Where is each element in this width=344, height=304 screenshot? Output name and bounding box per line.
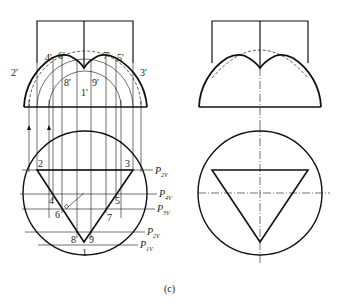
engineering-drawing: 2' 4' 6' 8' 1' 9' 7' 5' 3' 2 3 4 5 6 7 8… <box>0 0 344 304</box>
plane-labels: P2V P4V P3V P2V P1V <box>139 165 173 252</box>
label-9prime: 9' <box>92 77 99 88</box>
right-angle-mark <box>64 204 68 208</box>
label-3prime: 3' <box>140 67 147 78</box>
arrow-icon <box>47 125 51 130</box>
left-front-view <box>24 21 147 238</box>
plane-label: P2V <box>146 226 161 239</box>
arrow-icon <box>27 125 31 130</box>
right-top-view <box>198 125 330 265</box>
label-4prime: 4' <box>45 52 52 63</box>
label-9: 9 <box>89 234 94 245</box>
hemisphere-plan-circle <box>23 131 147 255</box>
plane-label: P3V <box>156 203 171 216</box>
label-6: 6 <box>55 209 60 220</box>
label-1: 1 <box>82 247 87 258</box>
intersection-profile <box>24 55 147 107</box>
label-8prime: 8' <box>64 77 71 88</box>
label-8: 8 <box>71 234 76 245</box>
label-6prime: 6' <box>58 50 65 61</box>
label-2prime: 2' <box>11 67 18 78</box>
label-5: 5 <box>115 195 120 206</box>
label-2: 2 <box>38 158 43 169</box>
label-3: 3 <box>125 158 130 169</box>
label-7: 7 <box>107 212 112 223</box>
label-5prime: 5' <box>117 52 124 63</box>
plane-label: P2V <box>154 165 169 178</box>
prism-triangle <box>37 170 133 242</box>
label-1prime: 1' <box>81 87 88 98</box>
label-7prime: 7' <box>103 50 110 61</box>
plane-label: P4V <box>158 188 173 201</box>
right-front-view <box>199 21 321 125</box>
projection-lines <box>29 54 141 238</box>
plane-label: P1V <box>139 239 154 252</box>
radius-line <box>68 193 84 207</box>
label-4: 4 <box>49 195 54 206</box>
figure-caption: (c) <box>164 283 175 295</box>
